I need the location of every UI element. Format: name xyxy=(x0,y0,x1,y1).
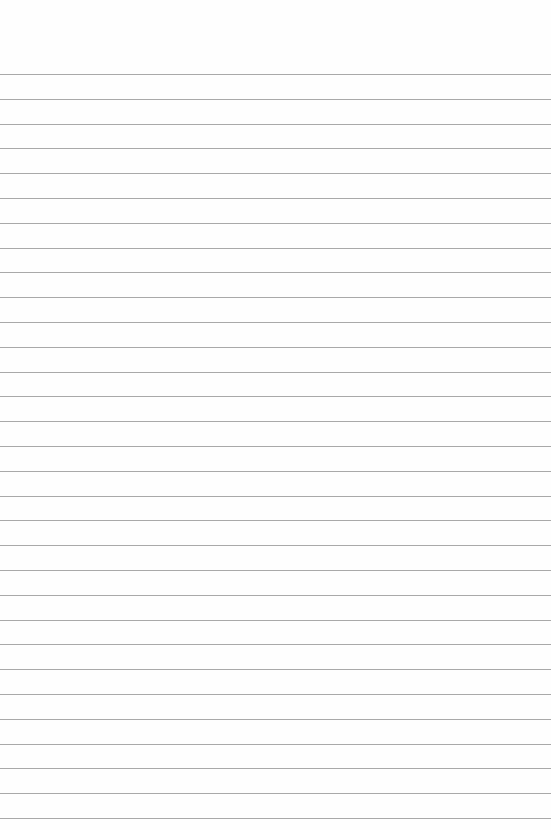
ruled-line xyxy=(0,570,551,571)
ruled-line xyxy=(0,446,551,447)
ruled-line xyxy=(0,272,551,273)
lined-paper-sheet xyxy=(0,0,551,830)
ruled-line xyxy=(0,496,551,497)
ruled-line xyxy=(0,694,551,695)
ruled-line xyxy=(0,669,551,670)
ruled-line xyxy=(0,421,551,422)
ruled-line xyxy=(0,818,551,819)
ruled-line xyxy=(0,322,551,323)
ruled-line xyxy=(0,297,551,298)
ruled-line xyxy=(0,248,551,249)
ruled-line xyxy=(0,719,551,720)
ruled-line xyxy=(0,173,551,174)
ruled-line xyxy=(0,545,551,546)
ruled-line xyxy=(0,347,551,348)
ruled-line xyxy=(0,595,551,596)
ruled-line xyxy=(0,198,551,199)
ruled-line xyxy=(0,148,551,149)
ruled-line xyxy=(0,396,551,397)
ruled-line xyxy=(0,471,551,472)
ruled-line xyxy=(0,644,551,645)
ruled-line xyxy=(0,620,551,621)
ruled-line xyxy=(0,744,551,745)
ruled-line xyxy=(0,793,551,794)
ruled-line xyxy=(0,223,551,224)
ruled-line xyxy=(0,372,551,373)
ruled-line xyxy=(0,768,551,769)
ruled-line xyxy=(0,99,551,100)
ruled-line xyxy=(0,124,551,125)
ruled-line xyxy=(0,520,551,521)
ruled-line xyxy=(0,74,551,75)
